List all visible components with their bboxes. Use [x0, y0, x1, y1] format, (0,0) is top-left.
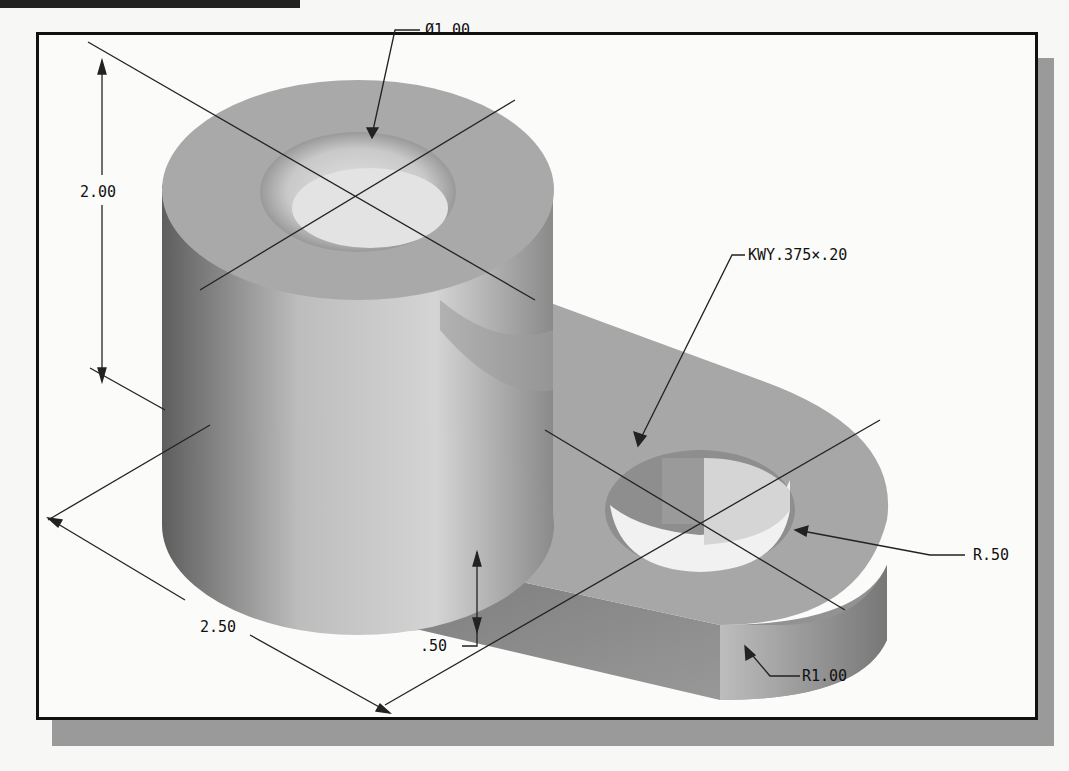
cylinder-boss [162, 80, 554, 635]
dim-diameter-label: Ø1.00 [425, 21, 470, 39]
dim-large-radius-label: R1.00 [802, 667, 847, 685]
dim-keyway-label: KWY.375×.20 [748, 246, 847, 264]
keyway-slot [662, 458, 704, 524]
dim-height [98, 60, 106, 382]
dim-thickness-label: .50 [420, 637, 447, 655]
cad-drawing: 2.00 Ø1.00 KWY.375×.20 R.50 R1.00 2.50 .… [0, 0, 1069, 771]
dim-length-label: 2.50 [200, 618, 236, 636]
dim-height-label: 2.00 [80, 183, 116, 201]
dim-small-radius-label: R.50 [973, 546, 1009, 564]
